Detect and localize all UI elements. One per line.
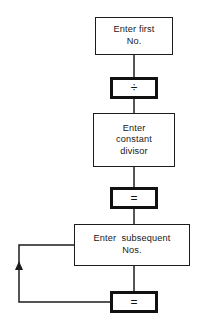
node-enter-divisor-line3: divisor	[120, 146, 148, 158]
node-enter-subsequent-numbers: Enter subsequent Nos.	[74, 224, 190, 266]
divide-symbol: ÷	[131, 82, 138, 94]
feedback-loop-arrowhead	[15, 261, 23, 270]
node-enter-divisor-line1: Enter	[123, 123, 146, 135]
node-enter-constant-divisor: Enter constant divisor	[93, 113, 175, 167]
flowchart-diagram: Enter first No. ÷ Enter constant divisor…	[0, 0, 207, 329]
node-enter-subsequent-line2: Nos.	[122, 245, 142, 257]
node-enter-divisor-line2: constant	[116, 134, 152, 146]
node-enter-subsequent-line1: Enter subsequent	[93, 233, 170, 245]
equals-symbol-second: =	[130, 296, 137, 308]
node-key-equals-second: =	[110, 291, 158, 313]
node-enter-first-line2: No.	[127, 36, 142, 48]
node-key-equals-first: =	[110, 187, 158, 209]
node-key-divide: ÷	[110, 77, 158, 99]
node-enter-first-line1: Enter first	[114, 24, 155, 36]
equals-symbol-first: =	[130, 192, 137, 204]
node-enter-first-number: Enter first No.	[95, 17, 173, 55]
